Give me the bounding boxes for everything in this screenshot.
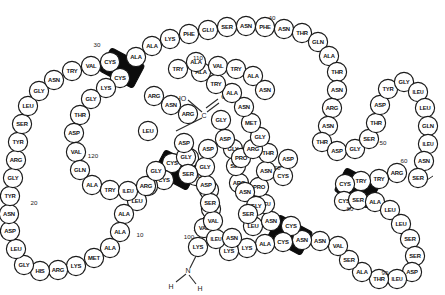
residue-label: TRY xyxy=(173,66,184,72)
residue-try-75: TRY xyxy=(369,169,388,188)
residue-asn-52: ASN xyxy=(274,19,293,38)
c-terminus-o-bond-a xyxy=(206,99,218,108)
position-number-110: 110 xyxy=(193,54,203,61)
residue-ala-95: ALA xyxy=(255,234,274,253)
residue-label: LEU xyxy=(22,103,33,109)
n-terminus-to-lys-bond xyxy=(190,256,196,268)
residue-label: ASN xyxy=(239,189,251,195)
residue-label: TRY xyxy=(67,68,78,74)
residue-thr-35: THR xyxy=(70,105,89,124)
residue-leu-69: LEU xyxy=(415,98,434,117)
residue-label: ALA xyxy=(86,182,98,188)
residue-ala-45: ALA xyxy=(142,36,161,55)
residue-asn-28: ASN xyxy=(44,70,63,89)
residue-label: CYS xyxy=(166,160,178,166)
residue-label: GLY xyxy=(86,96,97,102)
residue-gly-102: GLY xyxy=(195,157,214,176)
residue-label: ASN xyxy=(226,235,238,241)
residue-asn-57: ASN xyxy=(327,80,346,99)
residue-label: ARG xyxy=(148,93,161,99)
residue-label: ALA xyxy=(146,43,158,49)
residue-label: PHE xyxy=(259,24,271,30)
residue-asp-103: ASP xyxy=(198,139,217,158)
position-number-30: 30 xyxy=(94,41,101,48)
residue-label: GLU xyxy=(202,27,214,33)
residue-try-29: TRY xyxy=(62,61,81,80)
residue-ser-141: SER xyxy=(238,204,257,223)
residue-asn-72: ASN xyxy=(414,151,433,170)
residue-label: ASN xyxy=(278,26,290,32)
n-terminus-group: N H H xyxy=(168,256,202,292)
residue-label: THR xyxy=(316,139,328,145)
residue-lys-0: LYS xyxy=(188,237,207,256)
residue-label: ASN xyxy=(265,218,277,224)
residue-label: GLN xyxy=(312,39,324,45)
residue-label: ILEU xyxy=(423,141,434,147)
position-number-90: 90 xyxy=(382,269,389,276)
residue-cys-94: CYS xyxy=(273,232,292,251)
residue-label: ASP xyxy=(219,136,231,142)
residue-label: LEU xyxy=(384,207,395,213)
residue-val-99: VAL xyxy=(203,211,222,230)
residue-label: ILEU xyxy=(392,276,403,282)
residue-label: TRY xyxy=(105,187,116,193)
n-terminus-hydrogen-right-label: H xyxy=(197,285,202,292)
position-number-50: 50 xyxy=(380,139,387,146)
residue-tyr-24: TYR xyxy=(8,132,27,151)
residue-label: GLY xyxy=(399,79,410,85)
residue-label: TYR xyxy=(382,86,394,92)
residue-label: SER xyxy=(221,24,233,30)
residue-label: ASP xyxy=(178,140,190,146)
residue-label: VAL xyxy=(71,149,82,155)
residue-label: ALA xyxy=(226,90,238,96)
residue-label: HIS xyxy=(35,268,44,274)
residue-label: ILEU xyxy=(211,236,222,242)
residue-label: CYS xyxy=(104,59,116,65)
residue-label: LEU xyxy=(395,221,406,227)
residue-label: TRY xyxy=(211,81,222,87)
residue-ser-100: SER xyxy=(200,193,219,212)
residue-label: GLN xyxy=(422,123,434,129)
residue-label: CYS xyxy=(277,239,289,245)
residue-val-90: VAL xyxy=(328,236,347,255)
residue-label: GLY xyxy=(34,88,45,94)
residue-label: GLY xyxy=(181,154,192,160)
residue-label: ASN xyxy=(240,23,252,29)
residue-met-13: MET xyxy=(84,248,103,267)
residue-ileu-86: ILEU xyxy=(387,269,406,288)
residue-label: SER xyxy=(412,175,424,181)
residue-ser-133: SER xyxy=(178,164,197,183)
residue-label: VAL xyxy=(86,63,97,69)
residue-ileu-41: ILEU xyxy=(118,181,137,200)
residue-label: CYS xyxy=(114,75,126,81)
residue-label: ASN xyxy=(259,87,271,93)
residue-ser-73: SER xyxy=(408,168,427,187)
residue-label: ASP xyxy=(200,182,212,188)
residue-ser-83: SER xyxy=(400,229,419,248)
residue-label: LEU xyxy=(142,128,153,134)
residue-label: ALA xyxy=(118,211,130,217)
residue-label: SER xyxy=(16,121,28,127)
residue-label: ASN xyxy=(48,77,60,83)
position-number-80: 80 xyxy=(347,205,354,212)
residue-asn-91: ASN xyxy=(310,231,329,250)
residue-asn-105: ASN xyxy=(261,211,280,230)
residue-label: ILEU xyxy=(413,89,424,95)
residue-label: ASP xyxy=(202,146,214,152)
residue-label: ASN xyxy=(322,123,334,129)
residue-gln-70: GLN xyxy=(418,116,437,135)
residue-asn-50: ASN xyxy=(236,16,255,35)
residue-label: VAL xyxy=(333,243,344,249)
residue-label: LYS xyxy=(71,263,82,269)
residue-label: LYS xyxy=(224,248,235,254)
residue-asn-111: ASN xyxy=(222,228,241,247)
residue-label: TRY xyxy=(356,178,367,184)
residue-lys-14: LYS xyxy=(66,256,85,275)
c-terminus-carbon-label: C xyxy=(201,112,206,119)
residue-label: ASP xyxy=(68,130,80,136)
residue-arg-136: ARG xyxy=(144,86,163,105)
residue-glu-48: GLU xyxy=(198,20,217,39)
residue-label: ASP xyxy=(374,102,386,108)
position-number-120: 120 xyxy=(88,152,99,159)
residue-arg-58: ARG xyxy=(322,98,341,117)
